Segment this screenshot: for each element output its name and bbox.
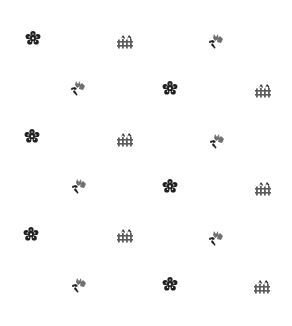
tulip-bouquet-icon [206, 33, 224, 49]
motif-flower [22, 226, 40, 242]
motif-flower [24, 30, 42, 46]
fence-with-birds-icon [253, 278, 271, 294]
tulip-bouquet-icon [207, 133, 225, 149]
wallpaper-pattern [0, 0, 292, 326]
tulip-bouquet-icon [69, 277, 87, 293]
motif-fence [116, 131, 134, 147]
motif-flower [23, 128, 41, 144]
fence-with-birds-icon [116, 227, 134, 243]
motif-flower [161, 178, 179, 194]
motif-fence [116, 227, 134, 243]
motif-flower [161, 80, 179, 96]
motif-tulip [207, 133, 225, 149]
motif-tulip [69, 277, 87, 293]
flower-rosette-icon [23, 128, 41, 144]
motif-fence [253, 278, 271, 294]
flower-rosette-icon [161, 80, 179, 96]
tulip-bouquet-icon [69, 178, 87, 194]
flower-rosette-icon [161, 178, 179, 194]
tulip-bouquet-icon [68, 80, 86, 96]
fence-with-birds-icon [254, 180, 272, 196]
motif-tulip [69, 178, 87, 194]
flower-rosette-icon [161, 276, 179, 292]
motif-fence [254, 82, 272, 98]
fence-with-birds-icon [116, 33, 134, 49]
flower-rosette-icon [24, 30, 42, 46]
fence-with-birds-icon [116, 131, 134, 147]
motif-fence [116, 33, 134, 49]
motif-tulip [68, 80, 86, 96]
motif-flower [161, 276, 179, 292]
flower-rosette-icon [22, 226, 40, 242]
motif-tulip [206, 230, 224, 246]
motif-tulip [206, 33, 224, 49]
fence-with-birds-icon [254, 82, 272, 98]
tulip-bouquet-icon [206, 230, 224, 246]
motif-fence [254, 180, 272, 196]
